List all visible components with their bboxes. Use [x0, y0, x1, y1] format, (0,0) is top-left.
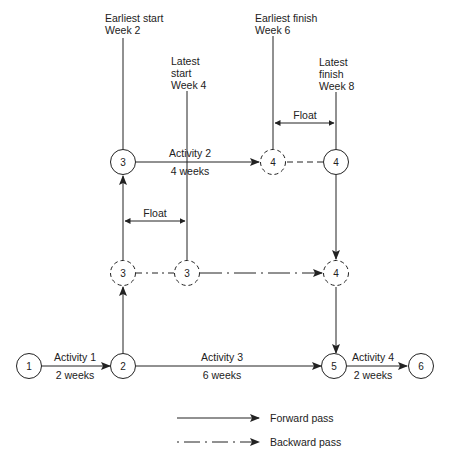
node-6-label: 6: [409, 361, 433, 372]
activity-2-duration: 4 weeks: [171, 165, 210, 177]
activity-3-duration: 6 weeks: [203, 369, 242, 381]
network-diagram: [0, 0, 450, 459]
node-5-label: 5: [322, 361, 346, 372]
activity-2-name: Activity 2: [169, 147, 211, 159]
latest-start-annotation: Latest start Week 4: [171, 55, 206, 91]
activity-1-duration: 2 weeks: [56, 369, 95, 381]
node-3-dashed-right-label: 3: [175, 268, 199, 279]
latest-finish-annotation: Latest finish Week 8: [319, 56, 354, 92]
node-3-dashed-left-label: 3: [111, 268, 135, 279]
earliest-start-annotation: Earliest start Week 2: [105, 12, 163, 36]
node-4-dashed-mid-label: 4: [324, 268, 348, 279]
float-label-top: Float: [293, 109, 316, 121]
earliest-finish-annotation: Earliest finish Week 6: [255, 12, 317, 36]
legend-backward-label: Backward pass: [270, 436, 341, 448]
legend-forward-label: Forward pass: [270, 412, 334, 424]
node-3-top-label: 3: [111, 157, 135, 168]
node-4-dashed-top-label: 4: [261, 157, 285, 168]
node-1-label: 1: [17, 361, 41, 372]
node-4-top-label: 4: [324, 157, 348, 168]
activity-3-name: Activity 3: [201, 351, 243, 363]
float-label-mid: Float: [143, 207, 166, 219]
node-2-label: 2: [111, 361, 135, 372]
activity-4-name: Activity 4: [352, 351, 394, 363]
activity-4-duration: 2 weeks: [354, 369, 393, 381]
activity-1-name: Activity 1: [54, 351, 96, 363]
